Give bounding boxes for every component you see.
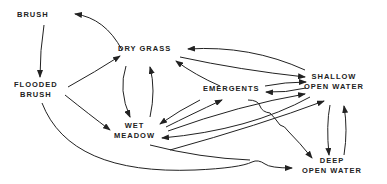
node-flooded-brush: FLOODED BRUSH [14, 80, 58, 100]
node-dry-grass-label: DRY GRASS [118, 44, 171, 54]
node-deep-open-water: DEEP OPEN WATER [302, 156, 362, 176]
node-flooded-brush-line2: BRUSH [14, 90, 58, 100]
node-shallow-line1: SHALLOW [304, 72, 364, 82]
node-deep-line1: DEEP [302, 156, 362, 166]
edge-dry-grass-to-wet-meadow [123, 66, 130, 117]
edge-wet-meadow-to-shallow-lower [170, 101, 324, 150]
node-brush-label: BRUSH [17, 10, 49, 20]
node-brush: BRUSH [17, 10, 49, 20]
node-dry-grass: DRY GRASS [118, 44, 171, 54]
edge-shallow-to-deep [328, 105, 330, 155]
node-wet-meadow-line1: WET [114, 121, 155, 131]
edge-flooded-brush-to-dry-grass [68, 56, 120, 87]
edge-wet-meadow-to-dry-grass [150, 67, 153, 117]
node-emergents: EMERGENTS [203, 84, 260, 94]
node-flooded-brush-line1: FLOODED [14, 80, 58, 90]
node-wet-meadow: WET MEADOW [114, 121, 155, 141]
edge-dry-grass-to-shallow [180, 57, 305, 77]
edge-shallow-to-dry-grass [188, 48, 305, 70]
edge-flooded-brush-to-deep-open-water [42, 103, 292, 170]
node-shallow-open-water: SHALLOW OPEN WATER [304, 72, 364, 92]
edge-deep-to-shallow [344, 106, 346, 155]
edge-wet-meadow-to-deep [150, 145, 250, 160]
node-deep-line2: OPEN WATER [302, 166, 362, 176]
edge-dry-grass-to-brush [75, 14, 122, 50]
node-shallow-line2: OPEN WATER [304, 82, 364, 92]
node-wet-meadow-line2: MEADOW [114, 131, 155, 141]
node-emergents-label: EMERGENTS [203, 84, 260, 94]
edge-emergents-to-shallow [265, 82, 306, 86]
edge-brush-to-flooded-brush [40, 25, 44, 77]
edge-shallow-to-emergents [266, 88, 306, 92]
edge-flooded-brush-to-wet-meadow [65, 95, 110, 130]
edge-emergents-to-dry-grass [176, 61, 220, 86]
succession-diagram: BRUSH FLOODED BRUSH DRY GRASS EMERGENTS … [0, 0, 387, 184]
edge-wet-meadow-to-emergents [166, 100, 222, 127]
